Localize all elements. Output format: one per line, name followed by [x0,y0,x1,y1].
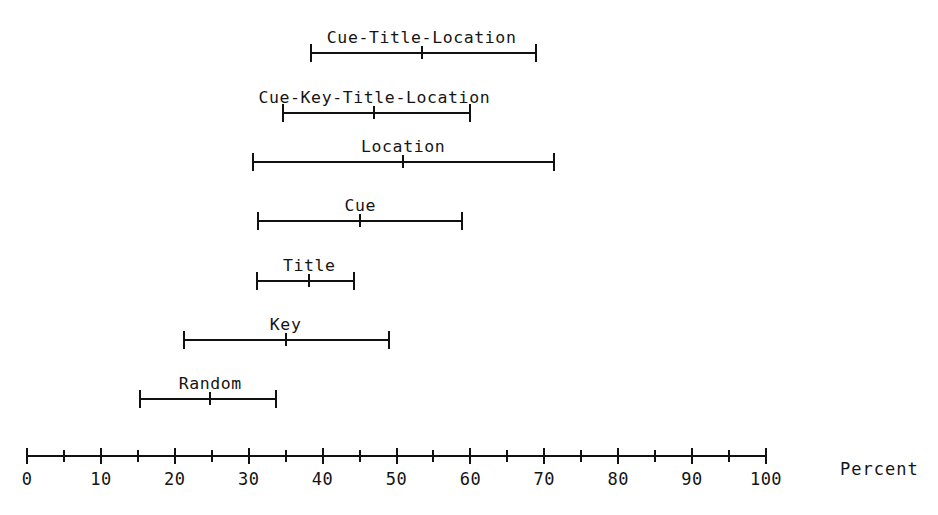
axis-tick-major [248,448,250,464]
whisker-line [310,52,537,54]
axis-tick-minor [285,450,287,462]
whisker-cap-high [553,153,555,171]
interval-whisker [139,390,276,408]
x-axis: 0102030405060708090100 Percent [0,445,938,515]
axis-tick-minor [137,450,139,462]
whisker-cap-low [257,212,259,230]
whisker-cap-high [388,331,390,349]
whisker-cap-high [535,44,537,62]
interval-chart: Cue-Title-LocationCue-Key-Title-Location… [0,0,938,515]
whisker-cap-high [461,212,463,230]
whisker-line [139,398,276,400]
axis-tick-label: 70 [534,469,555,489]
interval-whisker [183,331,390,349]
interval-row: Location [0,125,938,171]
axis-tick-major [691,448,693,464]
plot-area: Cue-Title-LocationCue-Key-Title-Location… [0,0,938,440]
whisker-cap-low [183,331,185,349]
axis-tick-label: 90 [681,469,702,489]
axis-tick-major [765,448,767,464]
whisker-midpoint-tick [209,392,211,405]
whisker-line [256,280,355,282]
axis-tick-minor [211,450,213,462]
axis-tick-label: 20 [164,469,185,489]
whisker-cap-high [275,390,277,408]
axis-title: Percent [840,459,919,479]
axis-tick-label: 0 [22,469,33,489]
interval-whisker [257,212,463,230]
axis-tick-major [100,448,102,464]
axis-tick-label: 40 [312,469,333,489]
whisker-cap-low [252,153,254,171]
whisker-cap-low [256,272,258,290]
interval-whisker [252,153,555,171]
axis-tick-minor [506,450,508,462]
interval-whisker [256,272,355,290]
axis-tick-label: 30 [238,469,259,489]
axis-tick-label: 10 [90,469,111,489]
whisker-cap-low [139,390,141,408]
axis-tick-major [543,448,545,464]
whisker-midpoint-tick [308,274,310,287]
interval-row: Cue-Title-Location [0,16,938,62]
interval-whisker [282,104,471,122]
whisker-cap-low [310,44,312,62]
axis-tick-minor [654,450,656,462]
interval-row: Key [0,303,938,349]
whisker-midpoint-tick [402,155,404,168]
axis-tick-major [26,448,28,464]
whisker-cap-high [469,104,471,122]
interval-row: Random [0,362,938,408]
axis-tick-major [322,448,324,464]
whisker-midpoint-tick [421,46,423,59]
axis-tick-label: 80 [607,469,628,489]
interval-row: Cue [0,184,938,230]
whisker-midpoint-tick [285,333,287,346]
interval-whisker [310,44,537,62]
axis-tick-major [469,448,471,464]
whisker-midpoint-tick [373,106,375,119]
whisker-midpoint-tick [359,214,361,227]
whisker-cap-low [282,104,284,122]
interval-row: Title [0,244,938,290]
axis-tick-major [174,448,176,464]
axis-tick-major [396,448,398,464]
whisker-cap-high [353,272,355,290]
axis-tick-minor [432,450,434,462]
axis-tick-minor [580,450,582,462]
interval-row: Cue-Key-Title-Location [0,76,938,122]
axis-tick-label: 50 [386,469,407,489]
axis-tick-label: 100 [750,469,782,489]
axis-tick-minor [359,450,361,462]
axis-tick-label: 60 [460,469,481,489]
whisker-line [282,112,471,114]
axis-tick-minor [728,450,730,462]
axis-tick-minor [63,450,65,462]
axis-tick-major [617,448,619,464]
